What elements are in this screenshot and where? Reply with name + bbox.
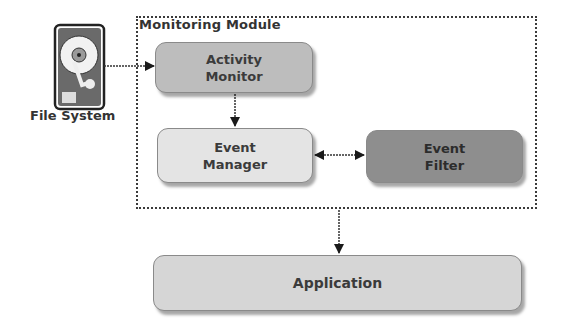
activity-monitor-line2: Monitor [205, 68, 262, 85]
event-filter-line1: Event [424, 140, 466, 157]
activity-monitor-node: Activity Monitor [155, 42, 313, 93]
application-node: Application [153, 255, 522, 311]
monitoring-module-title: Monitoring Module [139, 17, 281, 32]
activity-monitor-line1: Activity [205, 51, 262, 68]
event-manager-node: Event Manager [157, 128, 313, 183]
application-label: Application [293, 275, 382, 292]
event-filter-line2: Filter [424, 157, 466, 174]
hard-drive-icon [55, 25, 104, 109]
event-filter-node: Event Filter [366, 130, 523, 183]
file-system-label: File System [30, 108, 115, 123]
event-manager-line2: Manager [203, 156, 267, 173]
event-manager-line1: Event [203, 139, 267, 156]
